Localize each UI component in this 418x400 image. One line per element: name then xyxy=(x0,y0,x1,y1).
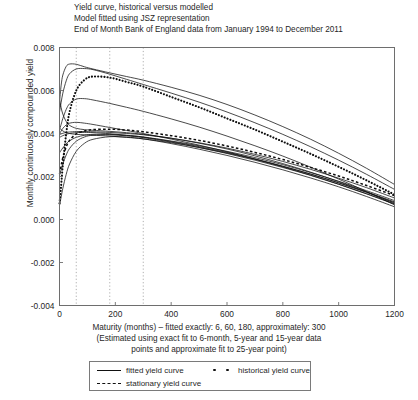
y-tick-label: -0.002 xyxy=(31,258,55,268)
y-axis-label: Monthly continuously compounded yield xyxy=(25,43,35,223)
fitted-line-swatch-icon xyxy=(96,365,122,375)
x-axis-label: Maturity (months) – fitted exactly: 6, 6… xyxy=(0,322,418,355)
y-tick-label: -0.004 xyxy=(31,301,55,311)
x-tick-label: 400 xyxy=(164,309,178,319)
x-tick-label: 1200 xyxy=(385,309,404,319)
plot-frame xyxy=(60,48,395,306)
x-axis-label-line-2: (Estimated using exact fit to 6-month, 5… xyxy=(0,333,418,344)
historical-dots-swatch-icon xyxy=(208,365,234,375)
x-tick-label: 200 xyxy=(108,309,122,319)
legend-item-fitted: fitted yield curve xyxy=(96,365,184,375)
x-tick-label: 600 xyxy=(220,309,234,319)
x-tick-label: 1000 xyxy=(329,309,348,319)
y-tick-label: 0.004 xyxy=(34,129,55,139)
x-axis-label-line-3: points and approximate fit to 25-year po… xyxy=(0,344,418,355)
legend-item-historical: historical yield curve xyxy=(208,365,310,375)
legend: fitted yield curve stationary yield curv… xyxy=(89,361,311,391)
y-tick-label: 0.006 xyxy=(34,86,55,96)
legend-label-fitted: fitted yield curve xyxy=(126,366,184,375)
gridlines xyxy=(76,48,143,306)
legend-label-historical: historical yield curve xyxy=(238,366,310,375)
x-tick-label: 0 xyxy=(57,309,62,319)
stationary-line-swatch-icon xyxy=(96,378,122,388)
yield-curve-figure: Yield curve, historical versus modelled … xyxy=(0,0,418,400)
y-tick-label: 0.008 xyxy=(34,43,55,53)
legend-item-stationary: stationary yield curve xyxy=(96,378,201,388)
x-axis-label-line-1: Maturity (months) – fitted exactly: 6, 6… xyxy=(0,322,418,333)
y-tick-label: 0.000 xyxy=(34,215,55,225)
y-tick-label: 0.002 xyxy=(34,172,55,182)
x-tick-label: 800 xyxy=(276,309,290,319)
x-axis-ticks: 020040060080010001200 xyxy=(57,302,404,319)
legend-label-stationary: stationary yield curve xyxy=(126,379,201,388)
y-axis-ticks: 0.0080.0060.0040.0020.000-0.002-0.004 xyxy=(31,43,63,311)
curve-stationary-yield-curve xyxy=(60,129,395,195)
